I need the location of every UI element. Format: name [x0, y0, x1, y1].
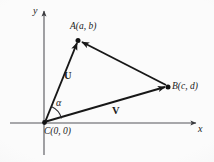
point-c-label: C(0, 0): [44, 127, 71, 137]
vector-v-line: [46, 87, 165, 122]
y-axis-label: y: [33, 6, 37, 16]
vector-u-line: [46, 43, 78, 121]
point-b-label: B(c, d): [172, 82, 198, 92]
point-a-label: A(a, b): [70, 22, 96, 32]
vector-u-label: U: [64, 71, 72, 82]
vector-v-label: V: [112, 106, 120, 117]
segment-ba-line: [82, 42, 166, 85]
point-a-marker: [76, 38, 81, 43]
angle-alpha-label: α: [56, 98, 61, 108]
vector-diagram-figure: y x A(a, b) B(c, d) C(0, 0) U V α: [0, 0, 214, 162]
point-b-marker: [166, 85, 171, 90]
point-c-marker: [42, 120, 47, 125]
x-axis-label: x: [198, 124, 202, 134]
